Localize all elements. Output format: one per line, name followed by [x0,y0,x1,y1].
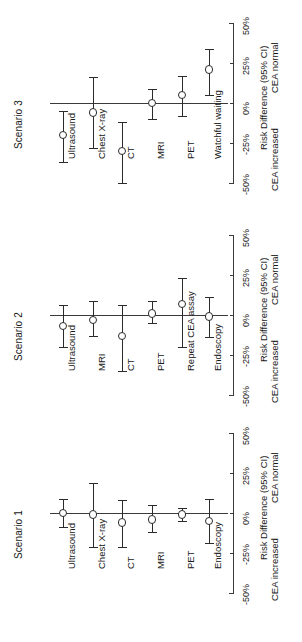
point-estimate-marker [178,91,186,99]
category-label-pet: PET [156,353,166,371]
axis-tick-label-0%: 0% [242,512,251,525]
point-estimate-marker [59,509,67,517]
axis-label-cea-normal: CEA normal [270,42,280,93]
axis-tick-label-0%: 0% [242,314,251,327]
value-axis-end-high [229,433,234,434]
value-axis-end-low [229,183,234,184]
point-estimate-marker [205,65,213,73]
category-label-ultrasound: Ultrasound [67,325,77,371]
error-bar-cap-upper [89,77,98,78]
category-label-endoscopy: Endoscopy [213,522,223,569]
category-label-mri: MRI [97,354,107,371]
axis-tick-label--50%: -50% [242,584,251,605]
value-axis-end-low [229,593,234,594]
category-label-endoscopy: Endoscopy [213,324,223,371]
error-bar-cap-upper [205,49,214,50]
error-bar-cap-upper [89,301,98,302]
axis-tick-0% [230,315,234,316]
point-estimate-marker [178,510,186,518]
error-bar-cap-lower [178,521,187,522]
point-estimate-marker [118,518,126,526]
point-estimate-marker [89,510,97,518]
value-axis-end-high [229,235,234,236]
axis-tick-0% [230,513,234,514]
panel-title-1: Scenario 3 [14,100,24,149]
axis-label-cea-increased: CEA increased [270,538,280,601]
category-label-ultrasound: Ultrasound [67,113,77,159]
error-bar-cap-upper [118,500,127,501]
error-bar-cap-upper [178,76,187,77]
axis-tick-0% [230,103,234,104]
error-bar-cap-upper [178,278,187,279]
point-estimate-marker [205,312,213,320]
error-bar-cap-lower [148,532,157,533]
error-bar-cap-lower [148,323,157,324]
category-label-repeat-cea-assay: Repeat CEA assay [186,291,196,371]
axis-tick-label-25%: 25% [242,467,251,485]
error-bar-cap-upper [59,499,68,500]
axis-tick-label-0%: 0% [242,102,251,115]
axis-tick-25% [230,275,234,276]
category-label-chest-x-ray: Chest X-ray [97,519,107,569]
axis-tick-label-50%: 50% [242,229,251,247]
panel-title-2: Scenario 2 [14,312,24,361]
point-estimate-marker [89,316,97,324]
axis-tick--25% [230,553,234,554]
error-bar-cap-lower [118,183,127,184]
error-bar-cap-upper [59,305,68,306]
error-bar-cap-lower [118,547,127,548]
point-estimate-marker [118,332,126,340]
axis-title: Risk Difference (95% CI) [259,46,269,150]
axis-tick--25% [230,355,234,356]
axis-label-cea-normal: CEA normal [270,254,280,305]
category-label-pet: PET [186,141,196,159]
error-bar-cap-upper [59,111,68,112]
axis-tick-label--25%: -25% [242,134,251,155]
axis-label-cea-normal: CEA normal [270,452,280,503]
axis-tick-label--25%: -25% [242,346,251,367]
error-bar-cap-lower [148,119,157,120]
error-bar-cap-lower [178,116,187,117]
value-axis-end-low [229,395,234,396]
axis-tick-label-25%: 25% [242,269,251,287]
error-bar-cap-lower [89,336,98,337]
error-bar-line [182,278,183,347]
axis-tick--25% [230,143,234,144]
category-label-mri: MRI [156,552,166,569]
category-label-ultrasound: Ultrasound [67,523,77,569]
axis-tick-label-50%: 50% [242,17,251,35]
panel-title-3: Scenario 1 [14,510,24,559]
error-bar-cap-upper [148,301,157,302]
category-label-pet: PET [186,551,196,569]
axis-title: Risk Difference (95% CI) [259,456,269,560]
value-axis-end-high [229,23,234,24]
point-estimate-marker [148,99,156,107]
error-bar-cap-upper [205,297,214,298]
category-label-ct: CT [126,556,136,569]
axis-tick-label--50%: -50% [242,174,251,195]
axis-label-cea-increased: CEA increased [270,340,280,403]
zero-reference-line [50,315,228,316]
category-label-ct: CT [126,146,136,159]
zero-reference-line [50,103,228,104]
error-bar-cap-upper [148,89,157,90]
error-bar-cap-upper [118,122,127,123]
axis-tick-label--50%: -50% [242,386,251,407]
error-bar-cap-upper [148,505,157,506]
axis-label-cea-increased: CEA increased [270,128,280,191]
axis-tick-25% [230,63,234,64]
error-bar-cap-upper [178,508,187,509]
axis-tick-25% [230,473,234,474]
error-bar-cap-upper [118,305,127,306]
category-label-watchful-waiting: Watchful waiting [213,90,223,159]
axis-title: Risk Difference (95% CI) [259,258,269,362]
forest-plot-figure: Scenario 3-50%-25%0%25%50%Risk Differenc… [0,0,302,642]
zero-reference-line [50,513,228,514]
point-estimate-marker [148,309,156,317]
category-label-mri: MRI [156,142,166,159]
category-label-chest-x-ray: Chest X-ray [97,109,107,159]
axis-tick-label--25%: -25% [242,544,251,565]
error-bar-cap-upper [89,483,98,484]
error-bar-cap-upper [205,499,214,500]
error-bar-cap-lower [118,371,127,372]
